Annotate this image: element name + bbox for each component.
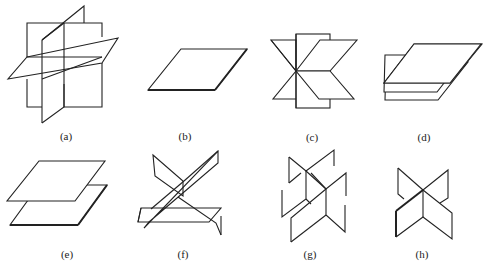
panel-c: (c)	[271, 34, 357, 144]
label-g: (g)	[304, 248, 317, 261]
panel-g: (g)	[282, 150, 346, 261]
panel-b: (b)	[148, 49, 247, 143]
label-h: (h)	[416, 248, 429, 261]
label-d: (d)	[418, 131, 431, 144]
panel-e: (e)	[7, 161, 107, 261]
label-f: (f)	[178, 248, 189, 261]
label-a: (a)	[60, 130, 73, 143]
panel-h: (h)	[396, 168, 452, 261]
panel-d: (d)	[384, 44, 482, 144]
label-c: (c)	[306, 131, 319, 144]
label-b: (b)	[179, 130, 192, 143]
panel-a: (a)	[8, 6, 118, 143]
plane-diagram: (a) (b) (c) (d) (e)	[0, 0, 487, 276]
label-e: (e)	[61, 248, 74, 261]
panel-f: (f)	[138, 151, 221, 261]
